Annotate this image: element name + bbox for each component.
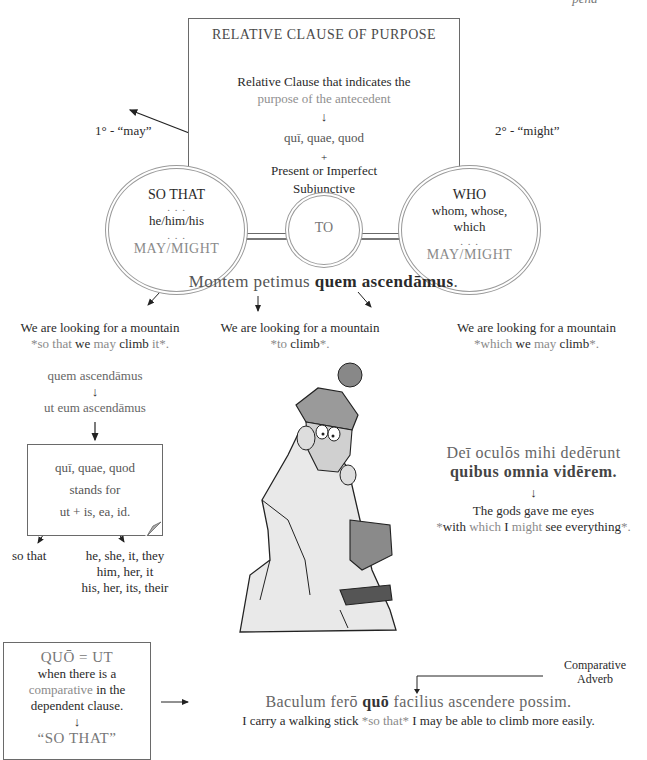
- down-arrow-icon: ↓: [420, 485, 647, 501]
- down-arrow-icon: ↓: [4, 714, 150, 730]
- derivation-line-1: quem ascendāmus: [20, 368, 170, 384]
- mood-line-1: Present or Imperfect: [188, 163, 460, 179]
- translation-line: *to climb*.: [200, 336, 400, 352]
- down-arrow-icon: ↓: [188, 109, 460, 125]
- example3-translation: I carry a walking stick *so that* I may …: [190, 713, 647, 729]
- relative-pronouns: quī, quae, quod: [188, 130, 460, 146]
- translation-line: We are looking for a mountain: [426, 320, 647, 336]
- translation-line: We are looking for a mountain: [200, 320, 400, 336]
- translation-to: We are looking for a mountain *to climb*…: [200, 320, 400, 352]
- example2-latin-2: quibus omnia vidērem.: [420, 463, 647, 481]
- down-arrow-icon: ↓: [20, 384, 170, 400]
- note-line-3: ut + is, ea, id.: [27, 504, 163, 520]
- quo-line-1: when there is a: [4, 666, 150, 682]
- translation-so-that: We are looking for a mountain *so that w…: [0, 320, 200, 352]
- plus-sign: +: [188, 151, 460, 163]
- pronoun-line-2: which: [402, 219, 537, 235]
- climber-illustration: [200, 360, 400, 660]
- note-line-2: stands for: [27, 482, 163, 498]
- latin-bold: quem ascendāmus: [315, 272, 454, 291]
- example3-latin: Baculum ferō quō facilius ascendere poss…: [190, 693, 647, 711]
- quo-title: QUŌ = UT: [4, 649, 150, 666]
- example2-translation: The gods gave me eyes *with which I migh…: [420, 503, 647, 535]
- meaning-so-that: so that: [12, 548, 46, 564]
- note-line-1: quī, quae, quod: [27, 460, 163, 476]
- circle-to: TO: [285, 192, 363, 268]
- page-curl-icon: [145, 520, 161, 536]
- label-may: 1° - “may”: [95, 123, 151, 139]
- modal: MAY/MIGHT: [402, 247, 537, 263]
- box-title: RELATIVE CLAUSE OF PURPOSE: [188, 27, 460, 43]
- translation-line: *which we may climb*.: [426, 336, 647, 352]
- latin-plain: Montem petimus: [189, 272, 315, 291]
- page-fragment: -pend-: [568, 0, 602, 7]
- quo-line-2: comparative in the: [4, 682, 150, 698]
- example1-latin: Montem petimus quem ascendāmus.: [0, 272, 647, 292]
- annotation-comparative-adverb: Comparative Adverb: [545, 658, 645, 686]
- ellipsis: . . .: [109, 229, 244, 241]
- quo-box: QUŌ = UT when there is a comparative in …: [3, 642, 151, 760]
- pronoun-line-1: whom, whose,: [402, 203, 537, 219]
- circle-title: TO: [289, 220, 359, 236]
- ellipsis: . . .: [402, 235, 537, 247]
- translation-line: *so that we may climb it*.: [0, 336, 200, 352]
- derivation-line-2: ut eum ascendāmus: [20, 400, 170, 416]
- box-definition-highlight: purpose of the antecedent: [188, 91, 460, 107]
- circle-title: WHO: [402, 187, 537, 203]
- pronouns: he/him/his: [109, 213, 244, 229]
- quo-meaning: “SO THAT”: [4, 730, 150, 747]
- quo-line-3: dependent clause.: [4, 698, 150, 714]
- ellipsis: . . .: [109, 201, 244, 213]
- box-definition: Relative Clause that indicates the: [188, 74, 460, 90]
- meaning-pronouns: he, she, it, they him, her, it his, her,…: [70, 548, 180, 596]
- label-might: 2° - “might”: [495, 123, 559, 139]
- translation-line: We are looking for a mountain: [0, 320, 200, 336]
- modal: MAY/MIGHT: [109, 241, 244, 257]
- translation-which: We are looking for a mountain *which we …: [426, 320, 647, 352]
- example2-latin-1: Deī oculōs mihi dedērunt: [420, 444, 647, 462]
- latin-end: .: [454, 272, 459, 291]
